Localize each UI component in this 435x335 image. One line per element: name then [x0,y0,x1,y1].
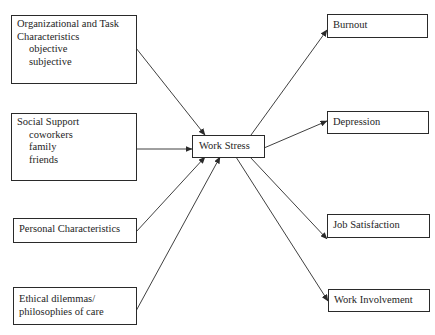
node-title: Work Involvement [334,294,424,307]
node-title: Personal Characteristics [19,223,131,236]
node-ethical-dilemmas: Ethical dilemmas/ philosophies of care [13,287,137,325]
node-personal-characteristics: Personal Characteristics [13,218,137,243]
arrow-stress-to-burnout [251,30,327,135]
node-title-line2: philosophies of care [19,306,131,319]
arrow-stress-to-work-involvement [236,157,328,301]
node-depression: Depression [327,111,429,134]
node-title-line2: Characteristics [17,31,131,44]
node-title-line1: Organizational and Task [17,18,131,31]
diagram-canvas: Organizational and Task Characteristics … [0,0,435,335]
node-item-coworkers: coworkers [17,129,131,142]
arrow-ethical-to-stress [136,157,220,311]
node-title: Social Support [17,116,131,129]
node-title: Work Stress [199,140,259,153]
node-title: Burnout [333,19,422,32]
node-title: Depression [333,116,423,129]
node-item-friends: friends [17,154,131,167]
node-work-stress: Work Stress [192,135,265,158]
node-work-involvement: Work Involvement [328,289,430,312]
node-social-support: Social Support coworkers family friends [11,113,137,181]
node-title-line1: Ethical dilemmas/ [19,293,131,306]
node-organizational-task-characteristics: Organizational and Task Characteristics … [11,15,137,84]
node-item-objective: objective [17,43,131,56]
node-job-satisfaction: Job Satisfaction [327,214,430,238]
arrow-stress-to-job-satisfaction [250,157,327,239]
node-item-family: family [17,141,131,154]
arrow-personal-to-stress [136,157,205,232]
node-burnout: Burnout [327,14,428,38]
arrow-stress-to-depression [264,121,327,148]
node-title: Job Satisfaction [333,219,424,232]
arrow-org-to-stress [136,48,205,135]
node-item-subjective: subjective [17,56,131,69]
